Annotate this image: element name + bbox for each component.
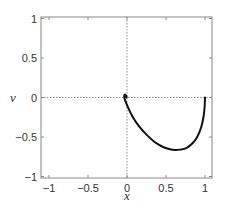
y-axis-label: v: [10, 90, 16, 105]
x-tick-label: −1: [43, 182, 56, 194]
x-tick-label: −0.5: [77, 182, 99, 194]
x-axis-label: x: [123, 188, 130, 203]
y-tick-label: 0.5: [22, 52, 37, 64]
y-tick-label: 1: [31, 13, 37, 25]
x-tick-label: 1: [202, 182, 208, 194]
phase-plot: −1−0.500.5110.50−0.5−1 x v: [0, 0, 227, 214]
y-tick-label: −0.5: [15, 131, 37, 143]
y-tick-label: 0: [31, 92, 37, 104]
x-tick-label: 0.5: [158, 182, 173, 194]
y-tick-label: −1: [24, 171, 37, 183]
